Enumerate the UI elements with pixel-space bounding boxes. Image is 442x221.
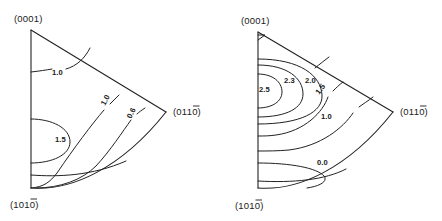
contour-line-0.6-top [137, 108, 145, 114]
contour-line-2.0-branch [315, 57, 329, 68]
contour-line-1.0-main [31, 110, 104, 188]
contour-value-labels-right: 2.5 2.3 2.0 1.5 1.0 0.0 [259, 76, 332, 167]
contour-line-0.6-main [36, 120, 131, 188]
contour-label-left-3: 1.5 [55, 135, 67, 144]
triangle-outline-left [31, 30, 166, 188]
contour-line-1.0-top [359, 97, 373, 107]
contour-label-left-1: 1.0 [99, 93, 112, 107]
contour-plot-right-svg: (0001) (1010) (0110) 2.5 2.3 2.0 1.5 1.0… [221, 0, 442, 221]
bar-digit: 1 [24, 199, 29, 210]
corner-label-bottom-right-panel: (1010) [235, 200, 264, 211]
contour-label-right-2: 2.0 [305, 76, 316, 85]
contour-label-right-5: 0.0 [317, 158, 328, 167]
contour-line-1.5-top [333, 82, 343, 91]
bar-digit: 1 [414, 106, 419, 117]
contour-line-1.0-main-top [110, 95, 119, 104]
contour-line-0.0-lower [258, 169, 346, 182]
contour-lines-right [258, 35, 373, 188]
contour-label-left-2: 0.6 [125, 106, 138, 120]
contour-line-0.0 [258, 163, 325, 188]
bar-digit: 1 [187, 106, 192, 117]
bar-digit: 1 [249, 200, 254, 211]
corner-label-top-right-panel: (0001) [241, 15, 270, 26]
apex-tick-right [258, 35, 265, 40]
corner-label-top-left-panel: (0001) [14, 13, 43, 24]
contour-label-right-1: 2.3 [284, 76, 295, 85]
figure-container: (0001) (1010) (0110) 1.0 1.0 0.6 1.5 [0, 0, 442, 221]
contour-label-left-0: 1.0 [52, 68, 63, 77]
contour-line-1.0-upper [31, 69, 52, 72]
corner-label-right-left-panel: (0110) [173, 106, 201, 117]
contour-label-right-4: 1.0 [321, 112, 332, 121]
corner-labels-left: (0001) (1010) (0110) [10, 13, 201, 210]
contour-plot-left-svg: (0001) (1010) (0110) 1.0 1.0 0.6 1.5 [0, 0, 221, 221]
corner-label-right-right-panel: (0110) [400, 106, 428, 117]
contour-line-1.0 [258, 113, 353, 151]
contour-label-right-0: 2.5 [259, 85, 271, 94]
contour-panel-left: (0001) (1010) (0110) 1.0 1.0 0.6 1.5 [0, 0, 221, 221]
contour-value-labels-left: 1.0 1.0 0.6 1.5 [52, 68, 138, 144]
corner-label-bottom-left-panel: (1010) [10, 199, 39, 210]
contour-panel-right: (0001) (1010) (0110) 2.5 2.3 2.0 1.5 1.0… [221, 0, 442, 221]
